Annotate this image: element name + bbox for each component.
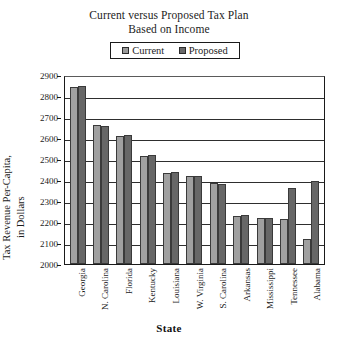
- bar-group: [253, 77, 276, 264]
- bar-group: [89, 77, 112, 264]
- bar-proposed: [124, 135, 132, 264]
- y-axis-tick-mark: [57, 244, 61, 245]
- y-axis-tick-mark: [57, 202, 61, 203]
- bar-group: [183, 77, 206, 264]
- y-axis-tick-label: 2100: [40, 239, 58, 249]
- y-axis-tick-labels: 2900280027002600250024002300220021002000: [28, 70, 61, 270]
- legend-label-current: Current: [132, 45, 164, 56]
- bar-proposed: [101, 126, 109, 264]
- bar-group: [300, 77, 323, 264]
- y-axis-tick-mark: [57, 181, 61, 182]
- y-axis-tick-mark: [57, 139, 61, 140]
- legend-entry-current: Current: [122, 45, 164, 56]
- chart-subtitle: Based on Income: [0, 22, 338, 36]
- y-axis-tick-label: 2400: [40, 176, 58, 186]
- x-axis-tick-slot: S. Carolina: [206, 266, 230, 322]
- y-axis-tick-mark: [57, 118, 61, 119]
- bar-proposed: [194, 176, 202, 264]
- x-axis-tick-slot: Mississippi: [253, 266, 277, 322]
- x-axis-tick-slot: Arkansas: [230, 266, 254, 322]
- x-axis-tick-slot: Alabama: [300, 266, 324, 322]
- x-axis-tick-label: Arkansas: [242, 268, 252, 302]
- y-axis-title-line-2: in Dollars: [15, 196, 26, 238]
- bar-current: [70, 87, 78, 264]
- x-axis-tick-slot: W. Virginia: [183, 266, 207, 322]
- bar-current: [280, 219, 288, 264]
- y-axis-tick-label: 2000: [40, 260, 58, 270]
- x-axis-tick-label: Florida: [124, 268, 134, 294]
- y-axis-tick-mark: [57, 265, 61, 266]
- y-axis-tick-mark: [57, 76, 61, 77]
- bar-current: [233, 216, 241, 264]
- bar-current: [303, 239, 311, 264]
- x-axis-tick-label: Alabama: [312, 268, 322, 300]
- bar-proposed: [288, 188, 296, 264]
- y-axis-tick-label: 2600: [40, 134, 58, 144]
- bar-group: [113, 77, 136, 264]
- x-axis-tick-label: Mississippi: [265, 268, 275, 309]
- y-axis-tick-label: 2200: [40, 218, 58, 228]
- bar-current: [210, 183, 218, 264]
- x-axis-tick-label: Kentucky: [147, 268, 157, 303]
- x-axis-tick-label: Georgia: [77, 268, 87, 297]
- y-axis-tick-mark: [57, 160, 61, 161]
- bar-group: [66, 77, 89, 264]
- y-axis-tick-mark: [57, 223, 61, 224]
- plot-area: [64, 76, 325, 265]
- bars-layer: [65, 77, 324, 264]
- x-axis-tick-slot: Louisiana: [159, 266, 183, 322]
- x-axis-tick-label: Tennessee: [289, 268, 299, 305]
- y-axis-title-line-1: Tax Revenue Per-Capita,: [1, 155, 12, 260]
- legend-swatch-proposed-icon: [179, 47, 186, 54]
- legend-swatch-current-icon: [122, 47, 129, 54]
- x-axis-tick-label: S. Carolina: [218, 268, 228, 309]
- x-axis-tick-label: W. Virginia: [195, 268, 205, 309]
- legend-entry-proposed: Proposed: [179, 45, 228, 56]
- chart-title-block: Current versus Proposed Tax Plan Based o…: [0, 8, 338, 36]
- bar-group: [136, 77, 159, 264]
- bar-current: [93, 125, 101, 264]
- chart-title: Current versus Proposed Tax Plan: [0, 8, 338, 22]
- x-axis-tick-slot: Tennessee: [277, 266, 301, 322]
- x-axis-tick-label: Louisiana: [171, 268, 181, 304]
- bar-group: [159, 77, 182, 264]
- x-axis-tick-slot: Georgia: [65, 266, 89, 322]
- x-axis-tick-slot: N. Carolina: [89, 266, 113, 322]
- bar-group: [230, 77, 253, 264]
- bar-current: [257, 218, 265, 264]
- bar-current: [140, 156, 148, 264]
- x-axis-tick-label: N. Carolina: [100, 268, 110, 310]
- x-axis-tick-slot: Kentucky: [136, 266, 160, 322]
- y-axis-tick-label: 2700: [40, 113, 58, 123]
- bar-proposed: [311, 181, 319, 264]
- y-axis-title: Tax Revenue Per-Capita, in Dollars: [2, 78, 30, 268]
- bar-proposed: [218, 184, 226, 264]
- bar-proposed: [78, 86, 86, 264]
- bar-group: [206, 77, 229, 264]
- y-axis-tick-label: 2500: [40, 155, 58, 165]
- bar-current: [186, 176, 194, 264]
- x-axis-title: State: [0, 322, 338, 334]
- bar-current: [163, 173, 171, 264]
- bar-proposed: [171, 172, 179, 264]
- bar-group: [276, 77, 299, 264]
- y-axis-tick-label: 2800: [40, 92, 58, 102]
- bar-current: [116, 136, 124, 264]
- bar-proposed: [148, 155, 156, 264]
- y-axis-tick-label: 2300: [40, 197, 58, 207]
- y-axis-tick-label: 2900: [40, 71, 58, 81]
- x-axis-tick-labels: GeorgiaN. CarolinaFloridaKentuckyLouisia…: [64, 266, 325, 322]
- legend-label-proposed: Proposed: [189, 45, 228, 56]
- bar-proposed: [241, 215, 249, 264]
- y-axis-tick-mark: [57, 97, 61, 98]
- chart-legend: Current Proposed: [110, 42, 240, 59]
- bar-proposed: [265, 218, 273, 264]
- x-axis-tick-slot: Florida: [112, 266, 136, 322]
